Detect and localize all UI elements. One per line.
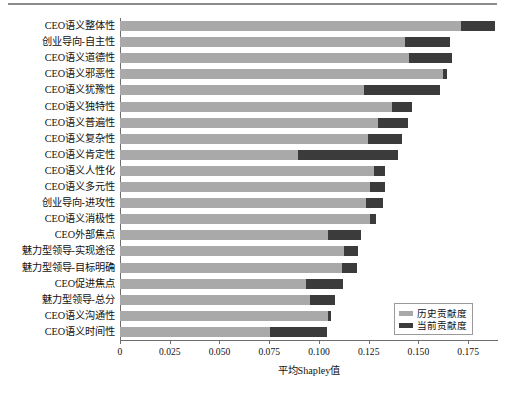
x-tick-mark xyxy=(369,340,370,344)
stacked-bar xyxy=(120,102,412,112)
x-axis-title: 平均Shapley值 xyxy=(120,362,498,377)
stacked-bar xyxy=(120,134,402,144)
bar-segment-current xyxy=(378,118,409,128)
y-axis-category-label: CEO语义消极性 xyxy=(45,214,115,224)
bar-row: CEO语义整体性 xyxy=(120,18,498,34)
legend-item-current: 当前贡献度 xyxy=(399,319,467,331)
bar-segment-current xyxy=(405,37,450,47)
bar-segment-current xyxy=(409,53,452,63)
bar-segment-historical xyxy=(120,246,344,256)
y-axis-category-label: 魅力型领导-总分 xyxy=(42,295,115,305)
bar-segment-current xyxy=(328,311,331,321)
x-tick-label: 0 xyxy=(118,346,123,357)
bar-row: 创业导向-进攻性 xyxy=(120,195,498,211)
bar-segment-current xyxy=(270,327,327,337)
x-tick-label: 0.175 xyxy=(457,346,479,357)
bar-row: CEO语义犹豫性 xyxy=(120,82,498,98)
y-axis-category-label: CEO语义整体性 xyxy=(45,21,115,31)
bar-row: 魅力型领导-目标明确 xyxy=(120,260,498,276)
bar-segment-historical xyxy=(120,166,374,176)
y-axis-category-label: CEO语义多元性 xyxy=(45,182,115,192)
y-axis-category-label: CEO语义时间性 xyxy=(45,327,115,337)
stacked-bar xyxy=(120,53,452,63)
bar-segment-current xyxy=(461,21,495,31)
bar-segment-historical xyxy=(120,53,409,63)
bar-segment-historical xyxy=(120,69,443,79)
stacked-bar xyxy=(120,166,385,176)
bar-row: 创业导向-自主性 xyxy=(120,34,498,50)
x-tick-label: 0.125 xyxy=(358,346,380,357)
y-axis-category-label: CEO语义肯定性 xyxy=(45,150,115,160)
bar-row: CEO外部焦点 xyxy=(120,227,498,243)
bar-segment-historical xyxy=(120,263,342,273)
bar-segment-current xyxy=(344,246,358,256)
bar-segment-historical xyxy=(120,118,378,128)
stacked-bar xyxy=(120,85,440,95)
bar-row: 魅力型领导-实现途径 xyxy=(120,243,498,259)
bar-segment-current xyxy=(366,198,383,208)
bar-segment-current xyxy=(306,279,343,289)
bar-segment-historical xyxy=(120,37,405,47)
bar-segment-historical xyxy=(120,150,298,160)
legend-label-current: 当前贡献度 xyxy=(417,318,467,332)
bar-segment-historical xyxy=(120,230,328,240)
stacked-bar xyxy=(120,279,343,289)
y-axis-category-label: CEO外部焦点 xyxy=(55,230,115,240)
x-tick-mark xyxy=(319,340,320,344)
bar-segment-current xyxy=(328,230,361,240)
x-axis-line xyxy=(120,340,498,341)
bar-segment-historical xyxy=(120,311,328,321)
bar-row: CEO语义消极性 xyxy=(120,211,498,227)
bar-row: CEO语义普遍性 xyxy=(120,115,498,131)
stacked-bar xyxy=(120,118,408,128)
bar-segment-historical xyxy=(120,182,370,192)
x-tick-mark xyxy=(219,340,220,344)
bar-segment-historical xyxy=(120,85,364,95)
bar-row: CEO语义多元性 xyxy=(120,179,498,195)
y-axis-category-label: 创业导向-进攻性 xyxy=(42,198,115,208)
bar-segment-current xyxy=(392,102,413,112)
bar-row: CEO语义邪恶性 xyxy=(120,66,498,82)
x-tick-label: 0.075 xyxy=(258,346,280,357)
bar-segment-historical xyxy=(120,327,270,337)
bar-segment-current xyxy=(370,214,376,224)
x-tick-label: 0.050 xyxy=(209,346,231,357)
bar-segment-historical xyxy=(120,134,368,144)
bar-segment-current xyxy=(342,263,357,273)
y-axis-category-label: CEO语义普遍性 xyxy=(45,118,115,128)
bar-segment-historical xyxy=(120,279,306,289)
plot-area: CEO语义整体性创业导向-自主性CEO语义道德性CEO语义邪恶性CEO语义犹豫性… xyxy=(120,18,498,340)
x-tick-label: 0.025 xyxy=(159,346,181,357)
stacked-bar xyxy=(120,246,358,256)
bar-row: CEO语义独特性 xyxy=(120,99,498,115)
bar-segment-historical xyxy=(120,198,366,208)
x-tick-mark xyxy=(418,340,419,344)
stacked-bar xyxy=(120,230,361,240)
bar-segment-historical xyxy=(120,21,461,31)
y-axis-category-label: CEO语义邪恶性 xyxy=(45,69,115,79)
x-tick-mark xyxy=(468,340,469,344)
bar-segment-current xyxy=(310,295,335,305)
bar-segment-current xyxy=(374,166,385,176)
stacked-bar xyxy=(120,69,447,79)
bar-segment-current xyxy=(370,182,385,192)
stacked-bar xyxy=(120,21,495,31)
bar-segment-historical xyxy=(120,214,370,224)
bar-segment-historical xyxy=(120,295,310,305)
y-axis-category-label: CEO语义复杂性 xyxy=(45,134,115,144)
bar-row: CEO语义复杂性 xyxy=(120,131,498,147)
bar-row: CEO促进焦点 xyxy=(120,276,498,292)
stacked-bar xyxy=(120,311,331,321)
y-axis-category-label: CEO语义犹豫性 xyxy=(45,85,115,95)
legend-swatch-current xyxy=(399,323,413,328)
stacked-bar xyxy=(120,214,376,224)
x-tick-label: 0.100 xyxy=(308,346,330,357)
y-axis-category-label: 魅力型领导-目标明确 xyxy=(22,262,115,272)
bar-row: CEO语义道德性 xyxy=(120,50,498,66)
bar-row: CEO语义肯定性 xyxy=(120,147,498,163)
bar-segment-current xyxy=(364,85,441,95)
stacked-bar xyxy=(120,327,327,337)
stacked-bar xyxy=(120,198,383,208)
x-tick-mark xyxy=(269,340,270,344)
y-axis-category-label: CEO语义沟通性 xyxy=(45,311,115,321)
